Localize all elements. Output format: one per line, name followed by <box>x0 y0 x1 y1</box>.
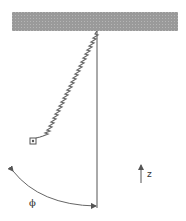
angle-arc <box>13 171 96 206</box>
axis-label-z: z <box>147 170 152 179</box>
spring-pendulum-diagram <box>0 0 186 221</box>
spring <box>36 31 98 138</box>
ceiling <box>12 12 178 31</box>
angle-label-phi: ϕ <box>29 198 36 208</box>
mass-center <box>32 140 34 142</box>
